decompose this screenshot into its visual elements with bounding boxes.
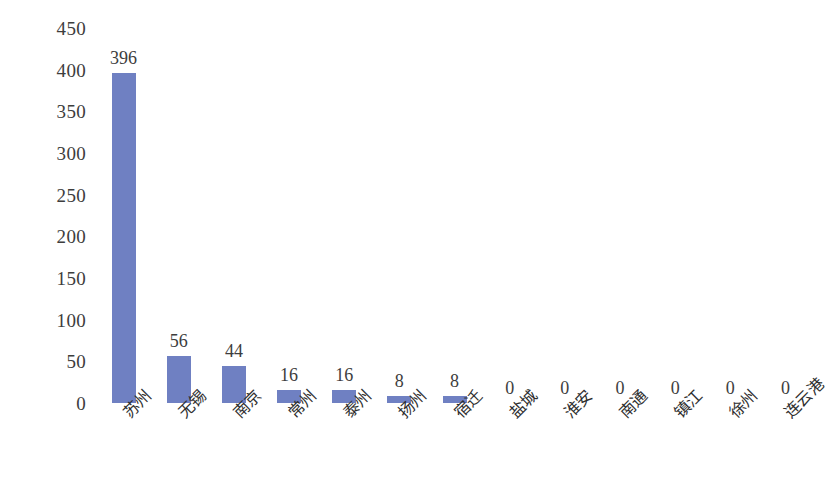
bar-value-label: 0 (671, 379, 680, 397)
x-axis: 苏州无锡南京常州泰州扬州宿迁盐城淮安南通镇江徐州连云港 (96, 403, 813, 493)
y-axis-tick-label: 350 (28, 102, 86, 121)
bar-value-label: 44 (225, 342, 243, 360)
bar-slot: 0 (537, 28, 592, 403)
x-axis-slot: 镇江 (648, 403, 703, 493)
y-axis-tick-label: 0 (28, 394, 86, 413)
bar-value-label: 56 (170, 332, 188, 350)
bar-value-label: 0 (781, 379, 790, 397)
x-axis-slot: 徐州 (703, 403, 758, 493)
bar-slot: 0 (703, 28, 758, 403)
bar-slot: 396 (96, 28, 151, 403)
y-axis-tick-label: 200 (28, 227, 86, 246)
x-axis-slot: 宿迁 (427, 403, 482, 493)
x-axis-slot: 连云港 (758, 403, 813, 493)
y-axis: 450400350300250200150100500 (28, 28, 86, 403)
bar-value-label: 0 (560, 379, 569, 397)
y-axis-tick-label: 100 (28, 310, 86, 329)
bar-value-label: 0 (615, 379, 624, 397)
x-axis-slot: 常州 (261, 403, 316, 493)
bar-series: 3965644161688000000 (96, 28, 813, 403)
bar-slot: 0 (758, 28, 813, 403)
y-axis-tick-label: 50 (28, 352, 86, 371)
bar[interactable] (112, 73, 136, 403)
plot-area: 3965644161688000000 (96, 28, 813, 403)
y-axis-tick-label: 300 (28, 144, 86, 163)
bar-value-label: 16 (335, 366, 353, 384)
bar-value-label: 0 (726, 379, 735, 397)
bar-value-label: 16 (280, 366, 298, 384)
bar-slot: 0 (482, 28, 537, 403)
bar-slot: 8 (427, 28, 482, 403)
bar-value-label: 8 (450, 372, 459, 390)
x-axis-slot: 无锡 (151, 403, 206, 493)
bar-slot: 16 (261, 28, 316, 403)
bar-value-label: 396 (110, 49, 137, 67)
x-axis-slot: 南京 (206, 403, 261, 493)
x-axis-slot: 苏州 (96, 403, 151, 493)
bar-slot: 0 (648, 28, 703, 403)
x-axis-slot: 南通 (592, 403, 647, 493)
y-axis-tick-label: 150 (28, 269, 86, 288)
y-axis-tick-label: 400 (28, 60, 86, 79)
x-axis-slot: 扬州 (372, 403, 427, 493)
x-axis-slot: 淮安 (537, 403, 592, 493)
bar-slot: 44 (206, 28, 261, 403)
bar-value-label: 0 (505, 379, 514, 397)
bar-slot: 16 (317, 28, 372, 403)
bar-slot: 0 (592, 28, 647, 403)
bar-value-label: 8 (395, 372, 404, 390)
bar-slot: 56 (151, 28, 206, 403)
x-axis-slot: 盐城 (482, 403, 537, 493)
y-axis-tick-label: 450 (28, 19, 86, 38)
x-axis-slot: 泰州 (317, 403, 372, 493)
y-axis-tick-label: 250 (28, 185, 86, 204)
bar-slot: 8 (372, 28, 427, 403)
